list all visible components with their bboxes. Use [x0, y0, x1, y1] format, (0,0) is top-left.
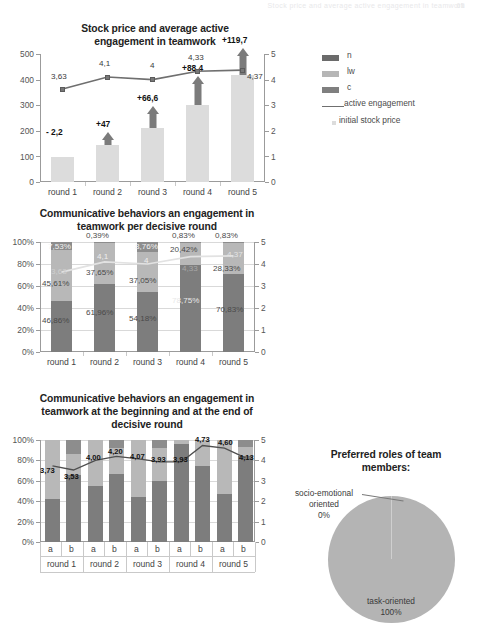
- pie-label-task-pct: 100%: [348, 607, 434, 618]
- chart3-value-r3-b: 3,93: [151, 455, 166, 464]
- chart-communicative-behaviors-per-round: Communicative behaviors an engagement in…: [0, 207, 290, 387]
- pie-title-line1: Preferred roles of team: [306, 448, 466, 461]
- chart3-ytick-100: 100%: [2, 435, 34, 445]
- chart1-xtick-round2: round 2: [85, 187, 130, 197]
- chart3-xtick-r4-a: a: [169, 544, 190, 554]
- chart2-engagement-round1: 3,63: [51, 267, 67, 276]
- chart1-plot-area: - 2,2 +47 +66,6 +88,4 +119,7 3,63 4,1 4 …: [40, 54, 265, 182]
- legend-item-c: c: [322, 82, 472, 98]
- document-page: Stock price and average active engagemen…: [0, 0, 479, 630]
- chart2-ytick-20: 20%: [6, 325, 34, 335]
- chart1-ytick-200: 200: [8, 126, 34, 136]
- chart3-value-r1-b: 3,53: [64, 472, 79, 481]
- chart2-y2tick-3: 3: [261, 281, 266, 291]
- chart2-label-n-round1: 46,86%: [42, 316, 69, 325]
- chart1-ytick-500: 500: [8, 49, 34, 59]
- legend-swatch-lw-icon: [322, 71, 339, 77]
- chart2-engagement-round2: 4,1: [97, 252, 108, 261]
- chart1-ytick-100: 100: [8, 152, 34, 162]
- chart2-label-c-round1: 7,53%: [48, 242, 71, 251]
- chart3-xtick-r5-a: a: [212, 544, 233, 554]
- chart2-xtick-round4: round 4: [169, 357, 212, 367]
- pie-label-socio-line2: oriented: [286, 499, 362, 510]
- chart2-title-line1: Communicative behaviors an engagement in: [22, 207, 272, 220]
- chart1-y2tick-1: 1: [271, 152, 276, 162]
- chart2-label-n-round4: 78,75%: [172, 296, 199, 305]
- chart1-engagement-line: [40, 54, 265, 182]
- pie-label-socio-emotional: socio-emotional oriented 0%: [286, 488, 362, 521]
- pie-label-socio-line1: socio-emotional: [286, 488, 362, 499]
- chart-communicative-behaviors-begin-end: Communicative behaviors an engagement in…: [0, 392, 290, 592]
- chart3-y2tick-5: 5: [261, 435, 266, 445]
- chart1-ytick-400: 400: [8, 75, 34, 85]
- chart3-xtick-r4-b: b: [190, 544, 211, 554]
- chart3-title-line1: Communicative behaviors an engagement in: [22, 392, 272, 405]
- chart3-ytick-60: 60%: [6, 476, 34, 486]
- chart2-ytick-100: 100%: [2, 237, 34, 247]
- chart3-ytick-80: 80%: [6, 455, 34, 465]
- chart3-title-line2: teamwork at the beginning and at the end…: [22, 405, 272, 418]
- chart-preferred-roles: Preferred roles of team members: socio-e…: [288, 448, 479, 630]
- chart3-value-r2-a: 4,00: [86, 453, 101, 462]
- chart3-ytick-20: 20%: [6, 517, 34, 527]
- legend-swatch-initial-stock-price-icon: [332, 121, 336, 125]
- chart3-y2tick-4: 4: [261, 455, 266, 465]
- chart1-y2tick-3: 3: [271, 100, 276, 110]
- page-number: 65: [456, 2, 465, 9]
- chart3-xtick-r3-b: b: [147, 544, 168, 554]
- chart3-xtick-r1-a: a: [40, 544, 61, 554]
- chart2-ytick-40: 40%: [6, 303, 34, 313]
- chart3-group-round3: round 3: [126, 559, 169, 569]
- chart1-xtick-round3: round 3: [130, 187, 175, 197]
- chart1-delta-round5: +119,7: [222, 35, 247, 45]
- pie-slice-socio-emotional: [391, 496, 392, 559]
- chart2-y2tick-4: 4: [261, 259, 266, 269]
- chart3-title: Communicative behaviors an engagement in…: [22, 392, 272, 431]
- chart2-label-c-round2: 0,39%: [86, 231, 109, 240]
- chart2-engagement-round3: 4: [144, 256, 149, 265]
- chart1-y2tick-0: 0: [271, 177, 276, 187]
- legend-label-initial-stock-price: initial stock price: [339, 115, 400, 125]
- chart1-xtick-round1: round 1: [40, 187, 85, 197]
- chart3-value-r4-a: 3,93: [173, 455, 188, 464]
- chart2-y2tick-2: 2: [261, 303, 266, 313]
- chart1-value-round4: 4,33: [188, 53, 204, 62]
- chart1-value-round1: 3,63: [51, 72, 67, 81]
- chart2-title: Communicative behaviors an engagement in…: [22, 207, 272, 233]
- chart3-ytick-40: 40%: [6, 496, 34, 506]
- legend-item-n: n: [322, 50, 472, 66]
- chart3-y2tick-3: 3: [261, 476, 266, 486]
- chart1-title-line1: Stock price and average active: [30, 22, 280, 35]
- chart3-group-round4: round 4: [169, 559, 212, 569]
- chart3-engagement-line: [40, 440, 255, 542]
- chart3-value-r5-a: 4,60: [218, 438, 233, 447]
- chart3-group-round2: round 2: [83, 559, 126, 569]
- chart2-ytick-0: 0%: [6, 347, 34, 357]
- chart2-xtick-round3: round 3: [126, 357, 169, 367]
- running-header-text: Stock price and average active engagemen…: [268, 2, 465, 9]
- chart2-label-c-round3: 8,76%: [135, 242, 158, 251]
- legend-line-active-engagement-icon: [322, 106, 344, 107]
- chart2-xtick-round1: round 1: [40, 357, 83, 367]
- chart3-xtick-r2-b: b: [104, 544, 125, 554]
- pie-label-task-oriented: task-oriented 100%: [348, 596, 434, 618]
- chart3-value-r3-a: 4,07: [130, 452, 145, 461]
- chart3-y2tick-1: 1: [261, 517, 266, 527]
- chart2-engagement-round4: 4,33: [182, 264, 198, 273]
- legend-item-initial-stock-price: initial stock price: [322, 115, 472, 132]
- chart3-y2tick-2: 2: [261, 496, 266, 506]
- chart1-legend: n lw c active engagement initial stock p…: [322, 50, 472, 132]
- chart3-group-round5: round 5: [212, 559, 255, 569]
- chart2-label-n-round5: 70,83%: [216, 305, 243, 314]
- chart1-xtick-round4: round 4: [175, 187, 220, 197]
- legend-label-c: c: [347, 82, 351, 92]
- chart2-label-lw-round3: 37,05%: [129, 276, 156, 285]
- chart2-label-c-round4: 0,83%: [172, 231, 195, 240]
- chart2-xtick-round2: round 2: [83, 357, 126, 367]
- chart2-plot-area: 3,63 4,1 4 4,33 4,37 7,53% 0,39% 8,76% 0…: [40, 242, 255, 352]
- chart3-value-r4-b: 4,73: [195, 435, 210, 444]
- chart2-label-n-round3: 54,18%: [129, 314, 156, 323]
- chart1-y2tick-2: 2: [271, 126, 276, 136]
- chart1-y2tick-4: 4: [271, 75, 276, 85]
- legend-item-active-engagement: active engagement: [322, 98, 472, 115]
